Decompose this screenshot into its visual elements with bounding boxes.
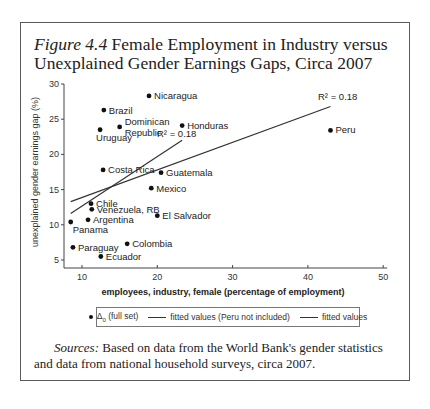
r2-annotation-full: R² = 0.18 [318, 91, 357, 102]
r2-annotation-peru-excluded: R² = 0.18 [157, 128, 196, 139]
data-point [159, 170, 164, 175]
y-tick-label: 20 [49, 149, 59, 159]
x-axis-label: employees, industry, female (percentage … [102, 287, 345, 297]
point-label: Ecuador [106, 251, 141, 262]
data-point [101, 167, 106, 172]
y-tick-label: 10 [49, 220, 59, 230]
point-label: Peru [335, 124, 355, 135]
line-marker-icon [148, 317, 166, 318]
point-label: Mexico [156, 183, 186, 194]
data-point [86, 217, 91, 222]
x-tick-label: 20 [152, 272, 162, 282]
x-tick-label: 30 [228, 272, 238, 282]
legend-points-label: Δ0 (full set) [97, 311, 139, 323]
legend-line2-label: fitted values [322, 312, 367, 322]
point-label: El Salvador [162, 210, 211, 221]
data-points: NicaraguaBrazilDominicanRepublicUruguayH… [68, 90, 355, 262]
y-tick-label: 15 [49, 185, 59, 195]
point-label: Costa Rica [108, 164, 155, 175]
data-point [71, 245, 76, 250]
point-label: Nicaragua [154, 90, 198, 101]
data-point [98, 254, 103, 259]
y-tick-label: 5 [54, 255, 59, 265]
data-point [147, 94, 152, 99]
data-point [125, 241, 130, 246]
dot-marker-icon [89, 315, 93, 319]
x-tick-label: 50 [378, 272, 388, 282]
data-point [89, 207, 94, 212]
point-label: Venezuela, RB [97, 204, 160, 215]
x-tick-label: 10 [77, 272, 87, 282]
legend-item-fit-no-peru: fitted values (Peru not included) [148, 312, 290, 322]
data-point [101, 108, 106, 113]
legend-item-fit-full: fitted values [300, 312, 367, 322]
data-point [328, 128, 333, 133]
point-label: Guatemala [166, 167, 213, 178]
legend-line1-label: fitted values (Peru not included) [170, 312, 290, 322]
point-label: Colombia [132, 238, 173, 249]
y-tick-label: 30 [49, 79, 59, 89]
y-axis-label: unexplained gender earnings gap (%) [30, 97, 40, 247]
point-label: Brazil [109, 105, 133, 116]
chart-legend: Δ0 (full set) fitted values (Peru not in… [96, 307, 360, 327]
legend-item-points: Δ0 (full set) [89, 311, 139, 323]
data-point [149, 186, 154, 191]
point-label: Uruguay [96, 132, 132, 143]
data-point [155, 213, 160, 218]
axes: 510152025301020304050employees, industry… [30, 79, 388, 297]
point-label: Panama [73, 224, 109, 235]
data-point [89, 201, 94, 206]
x-tick-label: 40 [303, 272, 313, 282]
sources-label: Sources: [54, 340, 99, 355]
sources-note: Sources: Based on data from the World Ba… [34, 340, 404, 372]
y-tick-label: 25 [49, 114, 59, 124]
line-marker-icon [300, 317, 318, 318]
data-point [117, 125, 122, 130]
